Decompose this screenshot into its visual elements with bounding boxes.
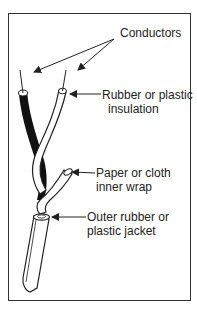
cable-illustration [0,0,197,311]
label-wrap-line1: Paper or cloth [96,166,171,180]
conductor-wire-1 [20,70,23,93]
label-wrap-line2: inner wrap [96,180,152,194]
arrow-conductor-2 [78,39,114,70]
label-insulation-line1: Rubber or plastic [102,88,193,102]
label-jacket-line2: plastic jacket [87,224,156,238]
arrow-inner-wrap [72,172,95,173]
label-insulation-line2: insulation [108,102,159,116]
outer-jacket [23,214,50,292]
dark-insulated-wire [19,70,47,200]
label-jacket-line1: Outer rubber or [87,210,169,224]
conductor-wire-2 [63,70,67,91]
arrow-conductor-1 [34,39,114,72]
label-conductors: Conductors [120,26,181,40]
